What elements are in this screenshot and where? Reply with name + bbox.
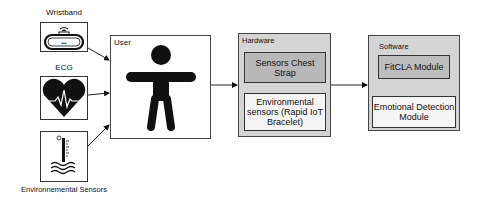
environmental-bracelet-node: Environmental sensors (Rapid IoT Bracele…	[244, 93, 326, 131]
user-box: User	[110, 35, 211, 139]
hardware-title: Hardware	[242, 36, 275, 45]
fitcla-module-node: FitCLA Module	[378, 55, 450, 79]
environmental-sensor-node	[40, 131, 88, 182]
emotional-detection-node: Emotional Detection Module	[372, 96, 456, 128]
wristband-label: Wristband	[30, 8, 98, 17]
environmental-sensors-label: Environnemental Sensors	[14, 185, 114, 194]
svg-text:•••: •••	[61, 40, 67, 46]
ecg-node	[40, 76, 88, 120]
person-icon	[123, 43, 199, 135]
thermometer-icon	[41, 132, 87, 181]
wristband-icon: •••	[41, 23, 87, 51]
wristband-node: •••	[40, 22, 88, 52]
ecg-label: ECG	[30, 63, 98, 72]
heart-ecg-icon	[41, 77, 87, 119]
chest-strap-node: Sensors Chest Strap	[244, 52, 326, 83]
software-title: Software	[379, 42, 409, 51]
